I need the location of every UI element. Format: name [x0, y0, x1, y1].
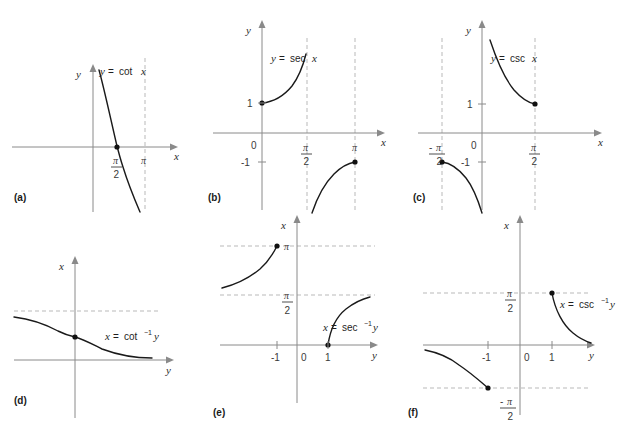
axis-label-x: x [58, 260, 64, 272]
panel-d: x y x = cot −1 y (d) [0, 240, 205, 429]
svg-text:-: - [500, 396, 503, 407]
y-axis-arrowhead [90, 64, 97, 72]
svg-text:y: y [609, 298, 615, 310]
svg-text:y: y [270, 52, 276, 64]
y-axis-arrowhead [166, 357, 174, 364]
equation-label-cot: y = cot x [99, 65, 146, 77]
tick-label-y-1: 1 [247, 98, 253, 109]
x-axis-arrowhead [72, 256, 79, 264]
panel-d-plot: x y x = cot −1 y [0, 240, 205, 429]
panel-letter-d: (d) [14, 395, 27, 406]
point-0-pi-over-2 [72, 334, 77, 339]
panel-a-plot: y x y = cot x π 2 π [0, 40, 200, 215]
tick-label-neg-pi-over-2: - π 2 [500, 396, 516, 422]
axis-label-x: x [380, 136, 386, 148]
svg-text:π: π [303, 142, 309, 153]
equation-label-arccsc: x = csc −1 y [559, 297, 615, 310]
tick-label-origin: 0 [471, 140, 477, 151]
tick-label-1: 1 [325, 352, 331, 363]
panel-b: y x y = sec x 1 -1 0 π 2 π (b) [205, 10, 405, 215]
axis-label-y: y [75, 68, 81, 80]
svg-text:2: 2 [508, 303, 514, 314]
svg-text:sec: sec [290, 53, 306, 64]
svg-text:−1: −1 [144, 329, 152, 336]
svg-text:x: x [311, 52, 317, 64]
tick-label-y-neg1: -1 [461, 157, 470, 168]
x-axis-arrowhead [294, 215, 301, 223]
x-axis-arrowhead [517, 215, 524, 223]
tick-label-pi-over-2: π 2 [301, 142, 312, 167]
svg-text:x: x [531, 52, 537, 64]
equation-label-arcsec: x = sec −1 y [322, 320, 378, 333]
axis-label-x: x [597, 136, 603, 148]
svg-text:y: y [153, 330, 159, 342]
svg-text:=: = [568, 299, 574, 310]
panel-letter-f: (f) [408, 407, 418, 418]
tick-label-1: 1 [549, 352, 555, 363]
tick-label-origin: 0 [251, 140, 257, 151]
point-neg1-neg-pi-over-2 [485, 385, 490, 390]
svg-text:x: x [140, 65, 146, 77]
svg-text:2: 2 [114, 169, 120, 180]
tick-label-origin: 0 [524, 352, 530, 363]
axis-label-y: y [465, 24, 471, 36]
svg-text:π: π [113, 155, 119, 166]
svg-text:=: = [331, 322, 337, 333]
svg-text:x: x [559, 298, 565, 310]
axis-label-y: y [371, 349, 377, 361]
svg-text:=: = [108, 66, 114, 77]
panel-f-plot: x y x = csc −1 y π 2 - π 2 [405, 215, 621, 429]
panel-c-plot: y x y = csc x 1 -1 0 - π 2 π [410, 10, 621, 215]
tick-label-origin: 0 [301, 352, 307, 363]
axis-label-x: x [173, 150, 179, 162]
svg-text:π: π [507, 396, 513, 407]
curve-csc-branch-upper [490, 40, 535, 104]
y-axis-arrowhead [479, 20, 486, 28]
tick-label-pi-over-2: π 2 [282, 290, 293, 316]
svg-text:=: = [499, 53, 505, 64]
panel-e-plot: x y x = sec −1 y π π 2 -1 0 1 [210, 215, 415, 429]
tick-label-y-neg1: -1 [241, 157, 250, 168]
point-pi-over-2 [114, 144, 119, 149]
curve-sec-branch-right [312, 162, 355, 213]
y-axis-arrowhead [259, 20, 266, 28]
tick-label-y-1: 1 [467, 99, 473, 110]
svg-text:=: = [113, 331, 119, 342]
tick-label-pi-over-2: π 2 [529, 142, 540, 167]
panel-e: x y x = sec −1 y π π 2 -1 0 1 (e) [210, 215, 415, 429]
panel-c: y x y = csc x 1 -1 0 - π 2 π [410, 10, 621, 215]
panel-letter-c: (c) [413, 192, 425, 203]
equation-label-arccot: x = cot −1 y [104, 329, 159, 342]
svg-text:y: y [372, 321, 378, 333]
panel-f: x y x = csc −1 y π 2 - π 2 [405, 215, 621, 429]
svg-text:csc: csc [510, 53, 525, 64]
point-1-pi-over-2 [549, 290, 554, 295]
panel-letter-b: (b) [208, 192, 221, 203]
svg-text:cot: cot [124, 331, 138, 342]
figure-root: y x y = cot x π 2 π (a) [0, 0, 621, 429]
axis-label-y: y [165, 364, 171, 376]
point-neg1-pi [274, 243, 279, 248]
svg-text:2: 2 [285, 305, 291, 316]
curve-csc-branch-lower [442, 162, 482, 213]
curve-arcsec-branch-left [222, 246, 277, 288]
svg-text:y: y [490, 52, 496, 64]
point-pi-minus-1 [352, 159, 357, 164]
axis-label-y: y [588, 349, 594, 361]
svg-text:2: 2 [437, 156, 443, 167]
svg-text:−1: −1 [601, 297, 609, 304]
svg-text:=: = [279, 53, 285, 64]
svg-text:2: 2 [508, 411, 514, 422]
y-axis-arrowhead [370, 342, 378, 349]
svg-text:csc: csc [579, 299, 594, 310]
tick-label-pi: π [352, 142, 358, 153]
tick-label-pi: π [284, 241, 290, 252]
svg-text:π: π [507, 288, 513, 299]
axis-label-x: x [503, 219, 509, 231]
svg-text:-: - [429, 142, 432, 153]
svg-text:π: π [531, 142, 537, 153]
svg-text:2: 2 [532, 156, 538, 167]
svg-text:y: y [99, 65, 105, 77]
svg-text:x: x [322, 321, 328, 333]
point-pi-over-2-1 [532, 101, 537, 106]
